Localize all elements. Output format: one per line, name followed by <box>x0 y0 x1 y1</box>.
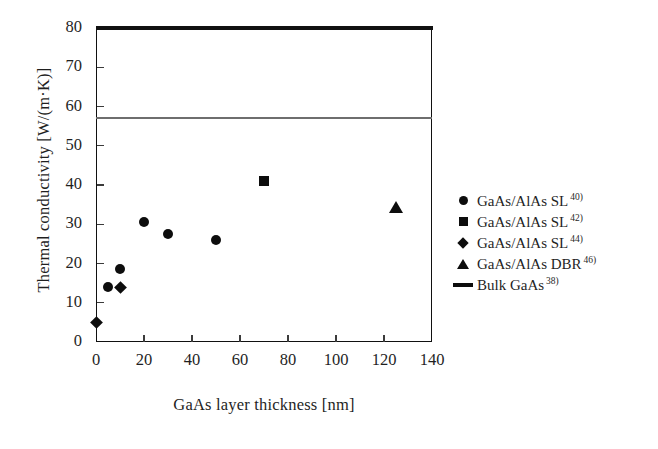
diamond-marker-icon <box>452 239 474 247</box>
circle-marker-icon <box>452 196 474 205</box>
legend-reference-number: 38) <box>544 276 559 286</box>
x-axis-tick-label: 140 <box>410 350 454 370</box>
data-point-circle <box>103 282 113 292</box>
y-axis-tick-label: 80 <box>38 17 82 37</box>
triangle-marker-glyph <box>457 259 469 269</box>
legend-label-text: GaAs/AlAs DBR <box>477 256 582 272</box>
circle-marker-glyph <box>459 196 468 205</box>
x-axis-tick-label: 0 <box>74 350 118 370</box>
x-axis-title: GaAs layer thickness [nm] <box>96 395 432 415</box>
legend-item: Bulk GaAs38) <box>452 274 648 295</box>
square-marker-glyph <box>459 217 468 226</box>
legend-item: GaAs/AlAs SL42) <box>452 211 648 232</box>
legend-label-text: GaAs/AlAs SL <box>477 235 568 251</box>
bulk-gaas-reference-line <box>96 117 432 119</box>
data-point-square <box>259 176 269 186</box>
x-axis-tick <box>287 335 288 342</box>
legend-item: GaAs/AlAs SL44) <box>452 232 648 253</box>
square-marker-icon <box>452 217 474 226</box>
y-axis-tick <box>97 184 104 185</box>
y-axis-tick-label: 40 <box>38 174 82 194</box>
legend-item: GaAs/AlAs DBR46) <box>452 253 648 274</box>
x-axis-tick <box>143 335 144 342</box>
x-axis-tick <box>335 335 336 342</box>
x-axis-tick-label: 20 <box>122 350 166 370</box>
x-axis-tick-label: 120 <box>362 350 406 370</box>
legend-item-label: GaAs/AlAs SL42) <box>474 213 583 231</box>
x-axis-tick-label: 100 <box>314 350 358 370</box>
y-axis-tick-label: 10 <box>38 292 82 312</box>
line-marker-icon <box>452 283 474 287</box>
legend-item-label: GaAs/AlAs SL44) <box>474 234 583 252</box>
data-point-circle <box>211 235 221 245</box>
legend-label-text: Bulk GaAs <box>477 277 544 293</box>
x-axis-tick <box>191 335 192 342</box>
legend-reference-number: 46) <box>582 255 597 265</box>
triangle-marker-icon <box>452 259 474 269</box>
y-axis-tick-label: 20 <box>38 253 82 273</box>
data-point-triangle <box>389 201 403 213</box>
plot-top-border <box>96 26 433 30</box>
chart-legend: GaAs/AlAs SL40)GaAs/AlAs SL42)GaAs/AlAs … <box>452 190 648 295</box>
y-axis-tick <box>97 145 104 146</box>
thermal-conductivity-scatter-chart: Thermal conductivity [W/(m·K)] GaAs laye… <box>0 0 658 449</box>
legend-reference-number: 42) <box>568 213 583 223</box>
y-axis-tick <box>97 263 104 264</box>
y-axis-tick <box>97 106 104 107</box>
y-axis-tick-label: 60 <box>38 96 82 116</box>
y-axis-tick-label: 30 <box>38 213 82 233</box>
legend-item: GaAs/AlAs SL40) <box>452 190 648 211</box>
y-axis-tick <box>97 302 104 303</box>
x-axis-tick-label: 40 <box>170 350 214 370</box>
x-axis-tick-label: 80 <box>266 350 310 370</box>
x-axis-tick <box>383 335 384 342</box>
y-axis-tick-label: 50 <box>38 135 82 155</box>
y-axis-tick-label: 0 <box>38 331 82 351</box>
diamond-marker-glyph <box>457 237 468 248</box>
x-axis-tick <box>239 335 240 342</box>
legend-reference-number: 44) <box>568 234 583 244</box>
y-axis-tick <box>97 224 104 225</box>
y-axis-tick <box>97 67 104 68</box>
legend-label-text: GaAs/AlAs SL <box>477 214 568 230</box>
data-point-circle <box>163 229 173 239</box>
x-axis-tick-label: 60 <box>218 350 262 370</box>
line-marker-glyph <box>453 283 473 287</box>
legend-label-text: GaAs/AlAs SL <box>477 193 568 209</box>
legend-reference-number: 40) <box>568 192 583 202</box>
legend-item-label: GaAs/AlAs SL40) <box>474 192 583 210</box>
legend-item-label: GaAs/AlAs DBR46) <box>474 255 596 273</box>
legend-item-label: Bulk GaAs38) <box>474 276 559 294</box>
y-axis-tick-label: 70 <box>38 56 82 76</box>
